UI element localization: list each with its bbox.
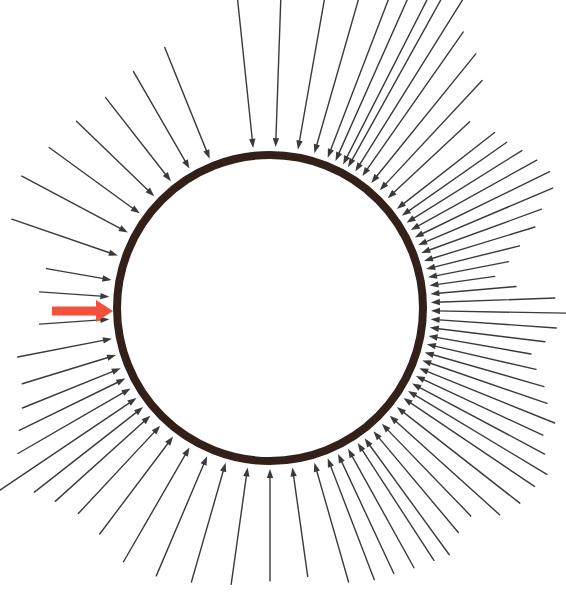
figure-root <box>0 0 566 596</box>
force-diagram-svg <box>0 0 566 596</box>
